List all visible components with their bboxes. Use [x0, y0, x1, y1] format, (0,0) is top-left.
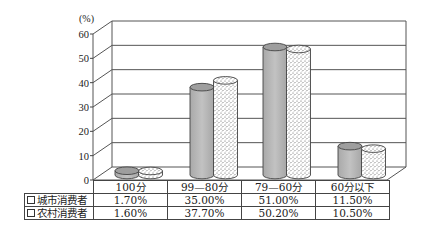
bar-series: [115, 43, 386, 179]
table-corner: [25, 181, 94, 194]
table-cell: 35.00%: [168, 194, 242, 207]
bar-city-3: [338, 142, 362, 178]
y-axis: 0102030405060(%): [79, 13, 95, 186]
bar-city-0: [115, 167, 139, 179]
legend-label-city: 城市消费者: [37, 194, 87, 206]
y-tick-label: 40: [79, 78, 90, 89]
legend-swatch-city-icon: [27, 196, 35, 204]
bar-rural-3: [362, 145, 386, 179]
legend-entry-city: 城市消费者: [25, 194, 94, 207]
y-unit-label: (%): [79, 13, 94, 25]
bar-rural-1: [214, 77, 238, 179]
y-tick-label: 10: [79, 151, 90, 162]
y-tick-label: 20: [79, 126, 90, 137]
table-header-cell: 100分: [94, 181, 168, 194]
bar-rural-2: [287, 45, 311, 179]
y-tick-label: 60: [79, 29, 90, 40]
table-cell: 11.50%: [316, 194, 390, 207]
table-cell: 50.20%: [242, 207, 316, 220]
table-cell: 10.50%: [316, 207, 390, 220]
y-tick-label: 30: [79, 102, 90, 113]
table-cell: 1.70%: [94, 194, 168, 207]
table-header-cell: 60分以下: [316, 181, 390, 194]
table-cell: 1.60%: [94, 207, 168, 220]
bar-rural-0: [139, 167, 163, 179]
bar-city-1: [190, 83, 214, 178]
table-header-row: 100分 99—80分 79—60分 60分以下: [25, 181, 390, 194]
legend-entry-rural: 农村消费者: [25, 207, 94, 220]
table-header-cell: 99—80分: [168, 181, 242, 194]
legend-swatch-rural-icon: [27, 209, 35, 217]
table-cell: 37.70%: [168, 207, 242, 220]
table-row-rural: 农村消费者 1.60% 37.70% 50.20% 10.50%: [25, 207, 390, 220]
table-cell: 51.00%: [242, 194, 316, 207]
data-table: 100分 99—80分 79—60分 60分以下 城市消费者 1.70% 35.…: [24, 180, 390, 220]
table-row-city: 城市消费者 1.70% 35.00% 51.00% 11.50%: [25, 194, 390, 207]
bar-city-2: [263, 43, 287, 179]
table-header-cell: 79—60分: [242, 181, 316, 194]
legend-label-rural: 农村消费者: [37, 207, 87, 219]
y-tick-label: 50: [79, 53, 90, 64]
